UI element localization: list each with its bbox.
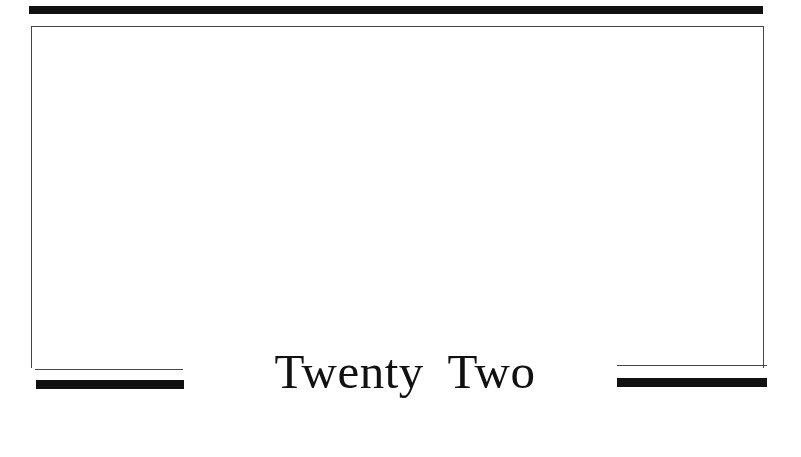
- chapter-frame: [31, 26, 764, 368]
- bottom-left-thick-rule: [36, 380, 184, 389]
- bottom-right-thick-rule: [617, 378, 767, 387]
- chapter-title: Twenty Two: [250, 344, 560, 400]
- top-thick-rule: [29, 6, 763, 14]
- bottom-left-thin-rule: [35, 369, 183, 370]
- bottom-right-thin-rule: [617, 365, 767, 366]
